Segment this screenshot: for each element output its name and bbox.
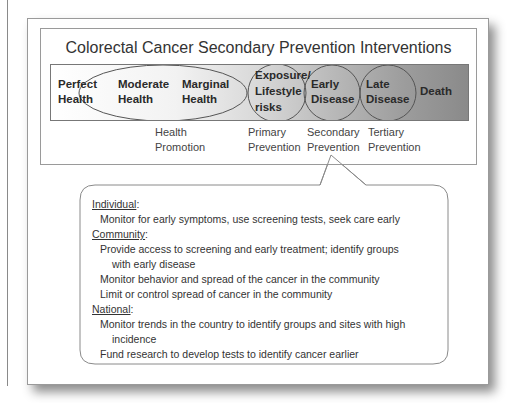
stage-exposure-lifestyle-risks: Exposure/ Lifestyle risks (255, 67, 311, 115)
stage-late-disease: Late Disease (366, 77, 409, 107)
health-continuum-bar: Perfect Health Moderate Health Marginal … (50, 64, 469, 121)
diagram-title: Colorectal Cancer Secondary Prevention I… (41, 39, 476, 57)
section-heading: National (92, 303, 131, 315)
list-item-continuation: incidence (92, 332, 444, 347)
list-item: Monitor behavior and spread of the cance… (92, 272, 444, 287)
section-individual: Individual: Monitor for early symptoms, … (92, 197, 444, 227)
label-secondary-prevention: Secondary Prevention (307, 125, 360, 155)
list-item: Limit or control spread of cancer in the… (92, 287, 444, 302)
stage-perfect-health: Perfect Health (58, 77, 97, 107)
secondary-prevention-interventions: Individual: Monitor for early symptoms, … (92, 197, 444, 362)
list-item-continuation: with early disease (92, 257, 444, 272)
continuum-diagram: Colorectal Cancer Secondary Prevention I… (40, 28, 477, 165)
section-heading: Individual (92, 198, 136, 210)
stage-death: Death (420, 84, 452, 99)
list-item: Monitor for early symptoms, use screenin… (92, 212, 444, 227)
section-heading: Community (92, 228, 145, 240)
section-community: Community: Provide access to screening a… (92, 227, 444, 302)
label-health-promotion: Health Promotion (155, 125, 205, 155)
label-tertiary-prevention: Tertiary Prevention (368, 125, 421, 155)
label-primary-prevention: Primary Prevention (248, 125, 301, 155)
stage-early-disease: Early Disease (311, 77, 354, 107)
list-item: Fund research to develop tests to identi… (92, 347, 444, 362)
list-item: Provide access to screening and early tr… (92, 242, 444, 257)
list-item: Monitor trends in the country to identif… (92, 317, 444, 332)
section-national: National: Monitor trends in the country … (92, 302, 444, 362)
stage-moderate-health: Moderate Health (118, 77, 169, 107)
stage-marginal-health: Marginal Health (182, 77, 229, 107)
